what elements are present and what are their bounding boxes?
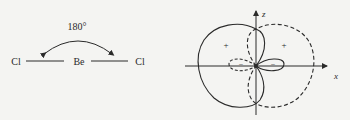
plus-sign-left: +: [223, 40, 228, 50]
nucleus-dot: [254, 64, 258, 68]
atom-be: Be: [73, 56, 85, 67]
angle-arc: [44, 41, 112, 54]
angle-label: 180°: [68, 21, 87, 32]
becl2-linear-diagram: 180° Cl Be Cl: [11, 21, 145, 67]
minus-sign-right: −: [271, 60, 276, 69]
atom-cl-left: Cl: [11, 56, 21, 67]
x-axis-label: x: [333, 71, 338, 81]
diagram-canvas: 180° Cl Be Cl z x + + − −: [0, 0, 350, 120]
plus-sign-right: +: [281, 40, 286, 50]
sp-hybrid-orbital-diagram: z x + + − −: [185, 9, 338, 115]
z-axis-label: z: [261, 9, 266, 19]
minus-sign-left: −: [239, 60, 244, 69]
atom-cl-right: Cl: [135, 56, 145, 67]
